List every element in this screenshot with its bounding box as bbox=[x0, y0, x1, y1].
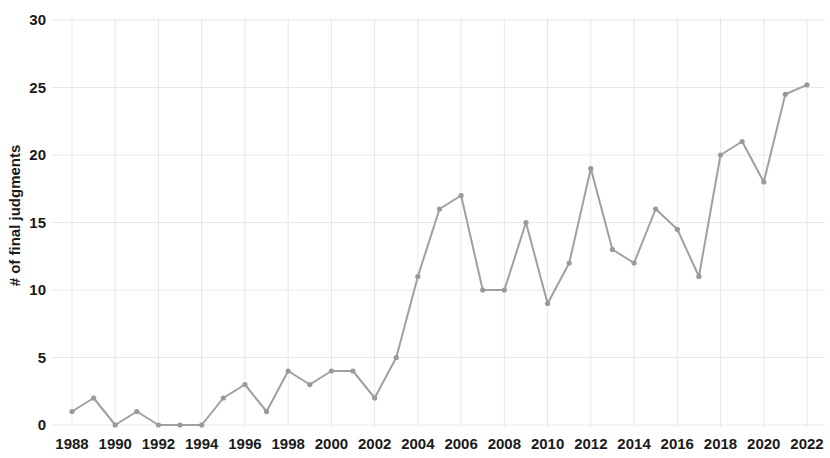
data-point-marker bbox=[588, 166, 593, 171]
x-tick-label: 2022 bbox=[785, 435, 829, 452]
data-point-marker bbox=[242, 382, 247, 387]
x-tick-label: 2004 bbox=[396, 435, 440, 452]
data-point-marker bbox=[480, 287, 485, 292]
y-tick-label: 5 bbox=[38, 349, 46, 366]
data-point-marker bbox=[545, 301, 550, 306]
data-point-marker bbox=[459, 193, 464, 198]
x-tick-label: 2006 bbox=[439, 435, 483, 452]
data-point-marker bbox=[415, 274, 420, 279]
data-point-marker bbox=[631, 260, 636, 265]
x-tick-label: 1994 bbox=[180, 435, 224, 452]
data-line bbox=[72, 85, 807, 425]
x-tick-label: 2020 bbox=[742, 435, 786, 452]
data-point-marker bbox=[696, 274, 701, 279]
data-point-marker bbox=[113, 422, 118, 427]
x-tick-label: 2014 bbox=[612, 435, 656, 452]
y-tick-label: 20 bbox=[29, 146, 46, 163]
data-point-marker bbox=[804, 82, 809, 87]
x-tick-label: 1998 bbox=[266, 435, 310, 452]
data-point-marker bbox=[221, 395, 226, 400]
x-tick-label: 1988 bbox=[50, 435, 94, 452]
data-point-marker bbox=[394, 355, 399, 360]
y-tick-label: 30 bbox=[29, 11, 46, 28]
line-chart: # of final judgments 051015202530 198819… bbox=[0, 0, 830, 458]
data-point-marker bbox=[761, 179, 766, 184]
data-point-marker bbox=[91, 395, 96, 400]
data-point-marker bbox=[264, 409, 269, 414]
data-point-marker bbox=[286, 368, 291, 373]
data-point-marker bbox=[610, 247, 615, 252]
x-tick-label: 1992 bbox=[136, 435, 180, 452]
data-point-marker bbox=[718, 152, 723, 157]
x-tick-label: 2010 bbox=[526, 435, 570, 452]
data-point-marker bbox=[523, 220, 528, 225]
data-point-marker bbox=[675, 227, 680, 232]
x-tick-label: 2016 bbox=[655, 435, 699, 452]
data-point-marker bbox=[199, 422, 204, 427]
x-tick-label: 1996 bbox=[223, 435, 267, 452]
x-tick-label: 2008 bbox=[482, 435, 526, 452]
data-point-marker bbox=[653, 206, 658, 211]
x-tick-label: 2002 bbox=[353, 435, 397, 452]
data-point-marker bbox=[783, 92, 788, 97]
data-point-marker bbox=[177, 422, 182, 427]
data-point-marker bbox=[567, 260, 572, 265]
y-tick-label: 0 bbox=[38, 416, 46, 433]
data-point-marker bbox=[437, 206, 442, 211]
data-point-marker bbox=[156, 422, 161, 427]
data-point-marker bbox=[740, 139, 745, 144]
x-tick-label: 2018 bbox=[699, 435, 743, 452]
y-tick-label: 25 bbox=[29, 79, 46, 96]
series-line bbox=[72, 85, 807, 425]
x-tick-label: 1990 bbox=[93, 435, 137, 452]
data-point-marker bbox=[350, 368, 355, 373]
data-point-marker bbox=[69, 409, 74, 414]
data-point-marker bbox=[307, 382, 312, 387]
y-tick-label: 15 bbox=[29, 214, 46, 231]
y-tick-label: 10 bbox=[29, 281, 46, 298]
data-point-marker bbox=[329, 368, 334, 373]
data-point-marker bbox=[372, 395, 377, 400]
data-point-marker bbox=[134, 409, 139, 414]
chart-plot-area bbox=[0, 0, 830, 458]
x-tick-label: 2012 bbox=[569, 435, 613, 452]
data-markers bbox=[69, 82, 809, 427]
x-tick-label: 2000 bbox=[309, 435, 353, 452]
data-point-marker bbox=[502, 287, 507, 292]
